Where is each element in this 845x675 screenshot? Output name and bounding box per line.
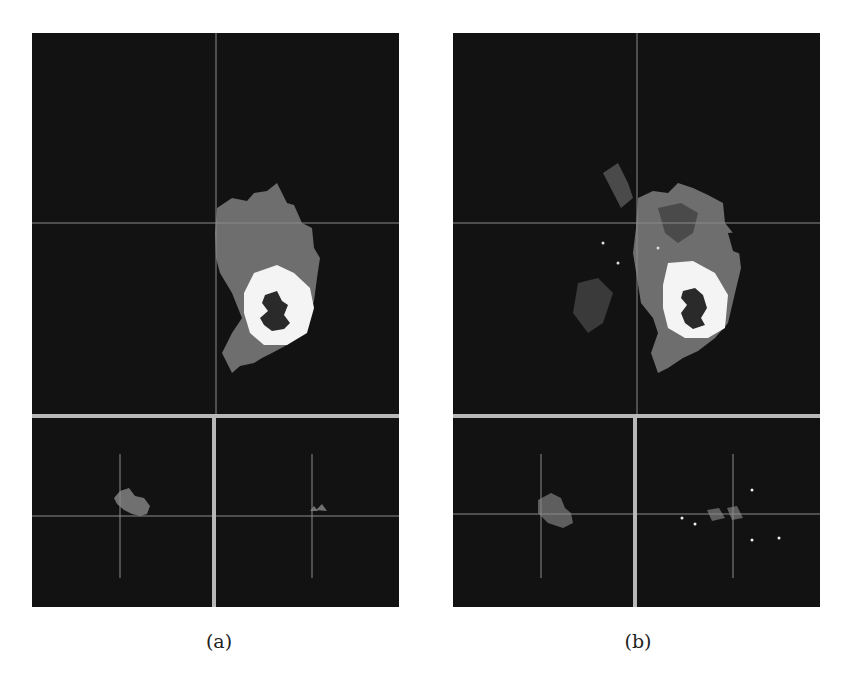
panel-b (453, 33, 820, 607)
panel-b-segmentation (453, 33, 820, 414)
caption-b: (b) (608, 630, 668, 652)
panel-a-main-view (32, 33, 399, 414)
panel-a-coronal-view (216, 418, 399, 607)
panel-b-coronal-view (637, 418, 820, 607)
panel-b-sagittal-view (453, 418, 633, 607)
caption-a: (a) (189, 630, 249, 652)
panel-a-segmentation (32, 33, 399, 414)
panel-a-sagittal-view (32, 418, 212, 607)
panel-b-main-view (453, 33, 820, 414)
panel-a (32, 33, 399, 607)
